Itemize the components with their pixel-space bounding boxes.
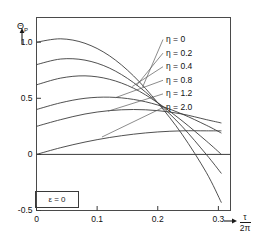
y-tick-label-2: 0.5	[11, 94, 33, 103]
y-axis-label: ΘP	[17, 22, 28, 33]
epsilon-annotation-box: ε = 0	[35, 191, 79, 208]
x-axis-label: τ 2π	[237, 213, 253, 232]
x-axis-label-denominator: 2π	[237, 224, 253, 232]
legend-entry-5: η = 2.0	[166, 103, 192, 112]
y-tick-label-1: 1.0	[11, 38, 33, 47]
y-axis-label-subscript: P	[24, 27, 28, 33]
legend-entry-2: η = 0.4	[166, 62, 192, 71]
legend-entry-4: η = 1.2	[166, 89, 192, 98]
legend-entry-1: η = 0.2	[166, 49, 192, 58]
x-tick-label-1: 0	[25, 215, 49, 224]
plot-frame	[37, 18, 231, 211]
y-tick-label-4: -0.5	[11, 206, 33, 215]
y-axis-label-main: Θ	[17, 21, 24, 31]
chart-canvas	[0, 0, 256, 247]
x-tick-label-4: 0.3	[206, 215, 230, 224]
x-tick-label-3: 0.2	[146, 215, 170, 224]
legend-entry-0: η = 0	[166, 35, 185, 44]
epsilon-annotation-text: ε = 0	[48, 195, 65, 204]
x-axis-label-numerator: τ	[237, 213, 253, 221]
legend-entry-3: η = 0.8	[166, 76, 192, 85]
chart-figure: ΘP 1.0 0.5 0 -0.5 0 0.1 0.2 0.3 τ 2π η =…	[0, 0, 256, 247]
y-tick-label-3: 0	[11, 150, 33, 159]
x-tick-label-2: 0.1	[85, 215, 109, 224]
